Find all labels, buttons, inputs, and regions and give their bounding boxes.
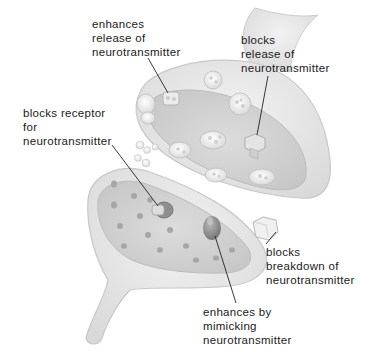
agonist-molecule <box>203 216 221 240</box>
enzyme-blocker-cube <box>253 217 278 240</box>
label-blocks-receptor: blocks receptor for neurotransmitter <box>23 106 112 148</box>
label-blocks-breakdown: blocks breakdown of neurotransmitter <box>266 245 355 287</box>
neurotransmitter-molecules <box>135 141 159 167</box>
label-enhances-release: enhances release of neurotransmitter <box>92 17 181 59</box>
label-enhances-mimicking: enhances by mimicking neurotransmitter <box>203 305 292 347</box>
release-site-enhanced <box>163 92 179 105</box>
label-blocks-release: blocks release of neurotransmitter <box>241 33 330 75</box>
